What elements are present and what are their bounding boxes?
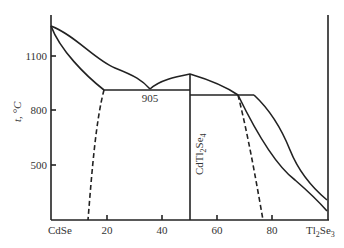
x-tick-60: 60	[212, 224, 224, 236]
eutectic-label: 905	[142, 92, 159, 104]
y-tick-500: 500	[31, 159, 48, 171]
x-tick-20: 20	[102, 224, 114, 236]
y-axis-label: t, °C	[11, 101, 23, 122]
y-tick-1100: 1100	[25, 50, 47, 62]
solvus-left	[88, 90, 104, 220]
x-tick-40: 40	[157, 224, 169, 236]
y-tick-800: 800	[31, 104, 48, 116]
phase-diagram: 1100 800 500 20 40 60 80 CdSe Tl2Se3 905…	[0, 0, 344, 248]
x-tick-80: 80	[267, 224, 279, 236]
liquidus-left	[51, 26, 150, 89]
liquidus-right	[254, 95, 327, 200]
x-right-label: Tl2Se3	[306, 224, 335, 239]
x-left-label: CdSe	[48, 224, 72, 236]
solidus-left	[51, 26, 104, 90]
solvus-right	[238, 95, 263, 220]
compound-label: CdTl2Se4	[193, 133, 208, 175]
liquidus-middle	[150, 74, 238, 95]
